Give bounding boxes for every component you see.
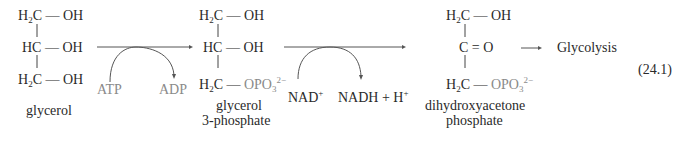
dhap-label-line1: dihydroxyacetone — [425, 98, 525, 114]
cofactor-adp: ADP — [159, 82, 187, 98]
product-glycolysis: Glycolysis — [557, 40, 617, 56]
reaction-arrow-1 — [97, 45, 193, 82]
reaction-arrow-2 — [284, 45, 406, 80]
reaction-arrows-layer — [0, 0, 689, 142]
g3p-label-line2: 3-phosphate — [202, 113, 270, 129]
reaction-arrow-3 — [521, 46, 542, 50]
glycerol-label: glycerol — [26, 103, 72, 119]
dhap-row-2: C = O — [459, 40, 493, 56]
dhap-row-1: H2C — OH — [446, 8, 511, 28]
dhap-label-line2: phosphate — [446, 113, 503, 129]
g3p-row-1: H2C — OH — [199, 8, 264, 28]
dhap-row-3: H2C — OPO32− — [446, 72, 533, 97]
cofactor-nad: NAD+ — [288, 85, 323, 106]
g3p-label-line1: glycerol — [216, 98, 262, 114]
cofactor-atp: ATP — [97, 82, 122, 98]
g3p-row-2: HC — OH — [203, 40, 264, 56]
glycerol-row-1: H2C — OH — [18, 8, 83, 28]
equation-number: (24.1) — [638, 62, 672, 78]
cofactor-nadh: NADH + H+ — [338, 85, 409, 106]
g3p-row-3: H2C — OPO32− — [199, 72, 286, 97]
glycerol-row-2: HC — OH — [22, 40, 83, 56]
glycerol-row-3: H2C — OH — [18, 72, 83, 92]
